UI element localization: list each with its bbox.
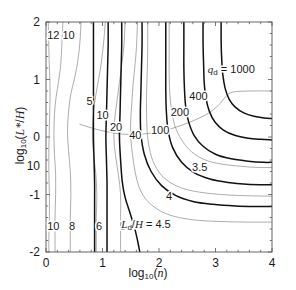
contour-inline-label: 4040 [129, 129, 141, 141]
contour-label-text: 400 [189, 90, 207, 102]
contour-inline-label: 200200 [171, 106, 189, 118]
contour-inline-label: 1010 [47, 220, 59, 232]
contour-inline-label: 1010 [96, 109, 108, 121]
contour-label-text: 10 [47, 220, 59, 232]
contour-inline-label: 55 [86, 95, 92, 107]
contour-label-text: 10 [62, 29, 74, 41]
contour-inline-label: 2020 [110, 121, 122, 133]
contour-inline-label: 3.53.5 [192, 161, 207, 173]
contour-label-text: 5 [86, 95, 92, 107]
y-axis-title-text: log10(L*/H) [13, 107, 27, 165]
contour-curve-ld-h-10 [54, 22, 63, 252]
y-tick-label: 1 [33, 73, 40, 87]
annotation-text: qd = 1000 [208, 63, 255, 77]
contour-label-text: 40 [129, 129, 141, 141]
x-axis-title: log10(n) [0, 266, 296, 281]
contour-plot-figure: 01234210-1-210 1212101055101020204040100… [0, 0, 296, 290]
contour-inline-label: 100100 [151, 124, 169, 136]
axis-tick-labels-layer: 01234210-1-210 [27, 15, 276, 270]
y-axis-stray-label: 10 [27, 159, 41, 173]
annotation-text: Ld/H = 4.5 [120, 218, 170, 232]
y-tick-label: 0 [33, 130, 40, 144]
contour-inline-label: 44 [166, 190, 172, 202]
qd-series-label: qd = 1000qd = 1000 [208, 63, 255, 77]
contour-inline-label: 66 [96, 220, 102, 232]
contour-curve-qd-5 [93, 22, 94, 252]
contour-label-text: 200 [171, 106, 189, 118]
contour-label-text: 3.5 [192, 161, 207, 173]
contour-label-text: 8 [69, 220, 75, 232]
contour-inline-label: 88 [69, 220, 75, 232]
contour-inline-label: 1010 [62, 29, 74, 41]
contour-label-text: 6 [96, 220, 102, 232]
contour-label-text: 20 [110, 121, 122, 133]
contour-label-text: 10 [96, 109, 108, 121]
y-tick-label: -2 [29, 245, 40, 259]
contour-label-text: 12 [47, 29, 59, 41]
contour-inline-label: 400400 [189, 90, 207, 102]
x-axis-title-text: log10(n) [129, 266, 168, 280]
contour-label-text: 100 [151, 124, 169, 136]
y-axis-title: log10(L*/H) [13, 70, 28, 202]
y-tick-label: 2 [33, 15, 40, 29]
ldh-series-label: Ld/H = 4.5Ld/H = 4.5 [120, 218, 170, 232]
contour-plot-canvas: 01234210-1-210 1212101055101020204040100… [0, 0, 296, 290]
contour-curve-qd-100 [166, 22, 272, 185]
contour-inline-label: 1212 [47, 29, 59, 41]
contour-curve-ld-h-8 [67, 22, 81, 252]
contour-label-text: 4 [166, 190, 172, 202]
y-tick-label: -1 [29, 188, 40, 202]
contour-curve-qd-400 [203, 22, 272, 140]
contour-curve-qd-10 [106, 22, 108, 252]
